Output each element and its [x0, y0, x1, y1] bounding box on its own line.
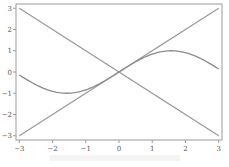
series-line: [19, 51, 218, 94]
y-tick-label: 3: [8, 5, 12, 13]
x-tick-label: −3: [14, 145, 24, 153]
y-tick-label: 1: [8, 47, 12, 55]
y-tick-label: 0: [8, 69, 12, 77]
x-tick-label: 3: [216, 145, 220, 153]
y-axis-ticks: −3−2−10123: [2, 5, 16, 141]
y-tick-label: −1: [2, 90, 12, 98]
x-tick-label: 1: [150, 145, 154, 153]
caption-bar: [50, 155, 180, 161]
y-tick-label: −3: [2, 132, 12, 140]
x-tick-label: −2: [47, 145, 57, 153]
y-tick-label: 2: [8, 26, 12, 34]
series-lines: [19, 8, 218, 136]
x-tick-label: 0: [117, 145, 121, 153]
chart: −3−2−10123 −3−2−10123: [0, 0, 229, 167]
y-tick-label: −2: [2, 111, 12, 119]
x-axis-ticks: −3−2−10123: [14, 140, 221, 153]
x-tick-label: −1: [81, 145, 91, 153]
x-tick-label: 2: [183, 145, 187, 153]
